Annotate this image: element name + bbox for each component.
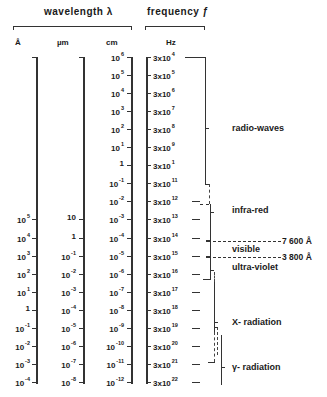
centimeter-tick — [127, 57, 132, 58]
micrometer-tick — [79, 292, 84, 293]
region-ultra-violet: ultra-violet — [232, 262, 278, 272]
hertz-tick — [146, 219, 151, 220]
wavelength-bracket-right — [131, 26, 132, 30]
centimeter-tick — [127, 183, 132, 184]
xray-bracket-bottom — [208, 362, 215, 363]
red-limit-mark — [206, 240, 211, 242]
hertz-tick — [146, 382, 151, 383]
hertz-tick — [146, 274, 151, 275]
hertz-tick — [146, 111, 151, 112]
micrometer-label: 1 — [72, 232, 76, 241]
centimeter-label: 106 — [111, 51, 124, 63]
micrometer-tick — [79, 274, 84, 275]
region-visible: visible — [232, 244, 260, 254]
wavelength-bracket — [13, 26, 132, 27]
infrared-tick — [210, 212, 214, 213]
centimeter-label: 10-11 — [106, 358, 124, 370]
centimeter-label: 10-12 — [106, 376, 124, 388]
micrometer-tick — [79, 382, 84, 383]
angstrom-tick — [32, 274, 37, 275]
micrometer-label: 10-6 — [61, 340, 76, 352]
centimeter-tick — [127, 111, 132, 112]
angstrom-label: 10-2 — [15, 340, 30, 352]
hertz-dash — [192, 238, 200, 239]
micrometer-tick — [79, 219, 84, 220]
centimeter-tick — [127, 75, 132, 76]
hertz-label: 3x1018 — [153, 304, 178, 316]
angstrom-tick — [32, 238, 37, 239]
angstrom-label: 105 — [17, 213, 30, 225]
unit-angstrom: Å — [15, 38, 21, 47]
angstrom-tick — [32, 310, 37, 311]
ultraviolet-tick — [210, 270, 214, 271]
region-gamma-radiation: γ- radiation — [232, 362, 281, 372]
optical-bracket — [210, 204, 211, 280]
hertz-dash — [192, 201, 200, 202]
unit-centimeter: cm — [106, 38, 118, 47]
frequency-bracket-right — [204, 26, 205, 30]
micrometer-tick — [79, 310, 84, 311]
hertz-axis — [146, 57, 148, 384]
hertz-label: 3x1019 — [153, 322, 178, 334]
unit-hertz: Hz — [166, 38, 176, 47]
centimeter-tick — [127, 382, 132, 383]
micrometer-label: 10-8 — [61, 376, 76, 388]
hertz-tick — [146, 238, 151, 239]
centimeter-tick — [127, 328, 132, 329]
centimeter-label: 10-6 — [109, 268, 124, 280]
centimeter-label: 101 — [111, 141, 124, 153]
hertz-label: 3x1013 — [153, 213, 178, 225]
hertz-tick — [146, 292, 151, 293]
angstrom-label: 1 — [26, 304, 30, 313]
hertz-label: 3x1022 — [153, 376, 178, 388]
hertz-dash — [192, 219, 200, 220]
centimeter-label: 10-5 — [109, 250, 124, 262]
electromagnetic-spectrum-diagram: wavelength λ frequency ƒ Å µm cm Hz 1063… — [0, 0, 327, 397]
hertz-label: 3x109 — [153, 141, 175, 153]
xray-overlap-top — [214, 327, 218, 328]
angstrom-tick — [32, 328, 37, 329]
centimeter-tick — [127, 238, 132, 239]
micrometer-axis-cap — [79, 57, 84, 58]
centimeter-label: 10-2 — [109, 195, 124, 207]
uv-xray-overlap — [214, 272, 215, 282]
micrometer-label: 10 — [67, 213, 76, 222]
angstrom-tick — [32, 346, 37, 347]
hertz-label: 3x107 — [153, 105, 175, 117]
hertz-label: 3x101 — [153, 159, 175, 171]
micrometer-label: 10-2 — [61, 268, 76, 280]
gamma-bracket — [221, 335, 222, 385]
micrometer-axis — [83, 57, 85, 384]
xray-dashed-tail — [214, 332, 215, 362]
centimeter-tick — [127, 201, 132, 202]
angstrom-label: 101 — [17, 286, 30, 298]
frequency-bracket — [145, 26, 205, 27]
centimeter-tick — [127, 346, 132, 347]
centimeter-label: 10-1 — [109, 177, 124, 189]
radio-bracket — [205, 57, 206, 185]
hertz-tick — [146, 147, 151, 148]
centimeter-label: 105 — [111, 69, 124, 81]
micrometer-label: 10-3 — [61, 286, 76, 298]
angstrom-label: 102 — [17, 268, 30, 280]
centimeter-tick — [127, 93, 132, 94]
wavelength-header: wavelength λ — [44, 6, 113, 17]
micrometer-label: 10-1 — [61, 250, 76, 262]
angstrom-tick — [32, 256, 37, 257]
hertz-dash — [192, 382, 200, 383]
region-radio-waves: radio-waves — [232, 123, 284, 133]
centimeter-tick — [127, 165, 132, 166]
hertz-dash — [192, 256, 200, 257]
angstrom-label: 104 — [17, 232, 30, 244]
hertz-tick — [146, 93, 151, 94]
radio-bracket-mid — [205, 128, 209, 129]
hertz-tick — [146, 201, 151, 202]
hertz-tick — [146, 57, 151, 58]
hertz-label: 3x108 — [153, 123, 175, 135]
hertz-label: 3x105 — [153, 69, 175, 81]
centimeter-label: 104 — [111, 87, 124, 99]
hertz-tick — [146, 346, 151, 347]
region-infra-red: infra-red — [232, 205, 269, 215]
hertz-tick — [146, 75, 151, 76]
hertz-dash — [192, 328, 200, 329]
